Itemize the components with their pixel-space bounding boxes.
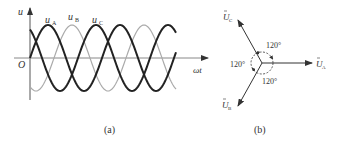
caption-b: (b) — [254, 124, 266, 136]
angle-label-top: 120° — [266, 41, 281, 50]
waveform-plot: u O ωt u A u B u C (a) — [14, 6, 208, 136]
svg-text:u: u — [45, 14, 50, 25]
phasor-uc — [238, 20, 262, 63]
svg-text:A: A — [322, 65, 326, 70]
wave-label-ua: u A — [45, 14, 57, 26]
phasor-label-ub: U B — [222, 99, 232, 111]
wave-label-ub: u B — [68, 11, 79, 23]
caption-a: (a) — [104, 124, 115, 136]
angle-label-left: 120° — [230, 60, 245, 69]
svg-text:A: A — [52, 20, 57, 26]
phasor-diagram: 120° 120° 120° U A U C U B (b) — [222, 11, 326, 136]
svg-text:C: C — [99, 20, 103, 26]
x-axis-label: ωt — [193, 65, 202, 75]
svg-text:C: C — [229, 18, 233, 23]
phasor-label-ua: U A — [316, 58, 326, 70]
svg-text:B: B — [75, 17, 79, 23]
origin-label: O — [18, 59, 25, 70]
phasor-label-uc: U C — [223, 11, 233, 23]
wave-label-uc: u C — [92, 14, 103, 26]
y-axis-label: u — [18, 6, 23, 17]
svg-text:u: u — [68, 11, 73, 22]
three-phase-diagram: u O ωt u A u B u C (a) 120° 120° 120° U … — [0, 0, 340, 147]
angle-label-bottom: 120° — [262, 77, 277, 86]
phasor-ub — [238, 63, 262, 106]
svg-text:B: B — [228, 106, 232, 111]
svg-text:u: u — [92, 14, 97, 25]
